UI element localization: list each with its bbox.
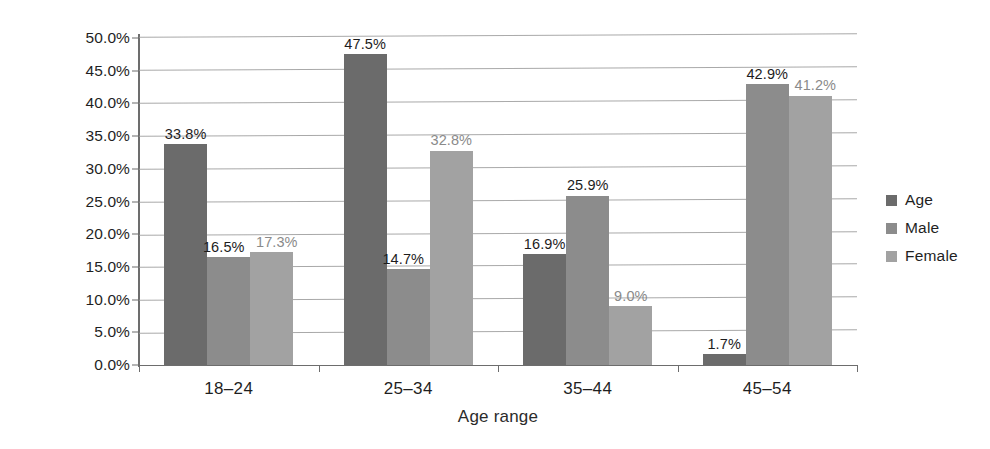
bar: 41.2% (789, 96, 832, 365)
bar-chart: Percentage 0.0%5.0%10.0%15.0%20.0%25.0%3… (0, 0, 990, 449)
bar: 25.9% (566, 196, 609, 365)
bar-value-label: 33.8% (165, 127, 207, 142)
bar-value-label: 14.7% (382, 252, 424, 267)
bar-value-label: 9.0% (614, 289, 647, 304)
legend-label: Age (905, 191, 933, 209)
bar-value-label: 41.2% (794, 78, 836, 93)
y-tick-mark (132, 168, 139, 169)
y-tick-mark (132, 266, 139, 267)
x-tick-mark (498, 365, 499, 372)
y-tick-label: 30.0% (86, 160, 130, 178)
y-tick-mark (132, 136, 139, 137)
bar-value-label: 32.8% (431, 133, 473, 148)
bar-value-label: 16.9% (524, 237, 566, 252)
legend-item: Male (886, 214, 986, 242)
bar: 33.8% (164, 144, 207, 365)
y-tick-mark (132, 38, 139, 39)
y-tick-label: 35.0% (86, 127, 130, 145)
bar-value-label: 16.5% (203, 240, 245, 255)
y-tick-label: 50.0% (86, 29, 130, 47)
legend-swatch-icon (886, 223, 897, 234)
plot-area: 0.0%5.0%10.0%15.0%20.0%25.0%30.0%35.0%40… (139, 38, 857, 365)
bar: 32.8% (430, 151, 473, 366)
x-tick-label: 18–24 (204, 379, 253, 399)
bar: 16.9% (523, 254, 566, 365)
bar: 42.9% (746, 84, 789, 365)
y-tick-label: 15.0% (86, 258, 130, 276)
x-tick-label: 25–34 (384, 379, 433, 399)
x-tick-mark (678, 365, 679, 372)
y-tick-label: 10.0% (86, 291, 130, 309)
legend-swatch-icon (886, 195, 897, 206)
x-axis-title: Age range (139, 407, 857, 427)
y-tick-label: 5.0% (94, 323, 130, 341)
x-tick-mark (139, 365, 140, 372)
x-tick-mark (857, 365, 858, 372)
bar-value-label: 42.9% (746, 67, 788, 82)
bar-value-label: 17.3% (256, 235, 298, 250)
legend-item: Female (886, 242, 986, 270)
bar: 47.5% (344, 54, 387, 365)
y-tick-label: 25.0% (86, 193, 130, 211)
legend-label: Female (905, 247, 958, 265)
bar: 14.7% (387, 269, 430, 365)
x-tick-label: 35–44 (563, 379, 612, 399)
bar-value-label: 47.5% (344, 37, 386, 52)
legend-swatch-icon (886, 251, 897, 262)
bar-value-label: 1.7% (707, 337, 740, 352)
y-tick-label: 20.0% (86, 225, 130, 243)
bar: 16.5% (207, 257, 250, 365)
x-tick-label: 45–54 (743, 379, 792, 399)
legend-item: Age (886, 186, 986, 214)
x-tick-mark (319, 365, 320, 372)
y-tick-mark (132, 234, 139, 235)
y-tick-mark (132, 70, 139, 71)
y-tick-label: 40.0% (86, 94, 130, 112)
y-tick-label: 0.0% (94, 356, 130, 374)
bar: 17.3% (250, 252, 293, 365)
y-tick-mark (132, 103, 139, 104)
bar: 9.0% (609, 306, 652, 365)
y-tick-label: 45.0% (86, 62, 130, 80)
legend-label: Male (905, 219, 939, 237)
legend: AgeMaleFemale (886, 186, 986, 270)
y-tick-mark (132, 365, 139, 366)
y-tick-mark (132, 299, 139, 300)
y-tick-mark (132, 201, 139, 202)
bar: 1.7% (703, 354, 746, 365)
y-tick-mark (132, 332, 139, 333)
bar-value-label: 25.9% (567, 178, 609, 193)
